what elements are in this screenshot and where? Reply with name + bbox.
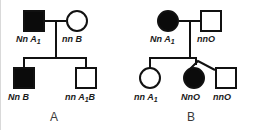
- genotype-text: nn A: [134, 92, 154, 102]
- genotype-text-suffix: B: [89, 92, 96, 102]
- genotype-text: nn B: [62, 34, 82, 44]
- individual-a-son-unaffected-male: [75, 67, 97, 89]
- genotype-text: NnO: [181, 92, 200, 102]
- individual-b-son-in-law-unaffected-male: [215, 67, 237, 89]
- panel-caption-b: B: [187, 110, 195, 124]
- sibship-line-a: [23, 57, 87, 59]
- genotype-label-a-son2: nn A1B: [65, 92, 95, 103]
- pedigree-panel-b: Nn A1 nnO nn A1 NnO nnO B: [129, 0, 256, 130]
- panel-caption-a: A: [50, 110, 58, 124]
- descent-line-a: [55, 20, 57, 58]
- individual-a-son-affected-male: [13, 67, 35, 89]
- sibship-line-b: [149, 57, 197, 59]
- descent-line-b: [189, 20, 191, 58]
- genotype-subscript: 1: [154, 96, 158, 103]
- genotype-text: nnO: [197, 34, 215, 44]
- individual-b-daughter-unaffected-female: [139, 67, 161, 89]
- genotype-subscript: 1: [37, 38, 41, 45]
- pedigree-panel-a: Nn A1 nn B Nn B nn A1B A: [1, 0, 129, 130]
- genotype-subscript: 1: [171, 38, 175, 45]
- pedigree-figure: Nn A1 nn B Nn B nn A1B A: [0, 0, 256, 130]
- genotype-label-b-daughter2: NnO: [181, 92, 200, 102]
- genotype-label-b-father: nnO: [197, 34, 215, 44]
- individual-a-father-affected-male: [23, 10, 45, 32]
- individual-a-mother-unaffected-female: [66, 10, 88, 32]
- genotype-label-a-father: Nn A1: [16, 34, 41, 45]
- genotype-label-b-son-in-law: nnO: [213, 92, 231, 102]
- individual-b-mother-affected-female: [157, 10, 179, 32]
- genotype-label-a-son1: Nn B: [8, 92, 29, 102]
- genotype-text: Nn A: [150, 34, 171, 44]
- individual-b-father-unaffected-male: [200, 10, 222, 32]
- genotype-label-a-mother: nn B: [62, 34, 82, 44]
- genotype-text: nn A: [65, 92, 85, 102]
- genotype-text: Nn B: [8, 92, 29, 102]
- genotype-label-b-mother: Nn A1: [150, 34, 175, 45]
- genotype-text: Nn A: [16, 34, 37, 44]
- genotype-label-b-daughter1: nn A1: [134, 92, 158, 103]
- individual-b-daughter-affected-female: [183, 67, 205, 89]
- genotype-text: nnO: [213, 92, 231, 102]
